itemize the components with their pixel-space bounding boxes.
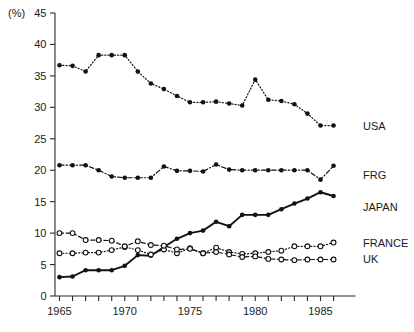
data-point-frg (253, 168, 258, 173)
data-point-japan (292, 201, 297, 206)
data-point-japan (279, 207, 284, 212)
x-tick-label: 1970 (113, 305, 137, 317)
data-point-frg (96, 168, 101, 173)
data-point-uk (70, 231, 75, 236)
data-point-uk (201, 251, 206, 256)
y-axis-unit-label: (%) (8, 7, 25, 19)
line-chart-svg: 051015202530354045(%)1965197019751980198… (0, 0, 414, 332)
data-point-uk (57, 231, 62, 236)
data-point-frg (122, 175, 127, 180)
data-point-japan (318, 190, 323, 195)
data-point-usa (266, 97, 271, 102)
y-tick-label: 0 (40, 290, 46, 302)
data-point-uk (331, 257, 336, 262)
data-point-usa (96, 53, 101, 58)
data-point-france (57, 251, 62, 256)
data-point-usa (253, 77, 258, 82)
series-label-japan: JAPAN (363, 201, 398, 213)
y-tick-label: 5 (40, 259, 46, 271)
data-point-frg (70, 163, 75, 168)
series-line-japan (60, 192, 334, 277)
axes: 051015202530354045(%)1965197019751980198… (8, 7, 356, 317)
data-point-frg (292, 168, 297, 173)
data-point-frg (188, 169, 193, 174)
data-point-usa (57, 63, 62, 68)
data-point-frg (83, 163, 88, 168)
data-point-frg (201, 169, 206, 174)
data-point-japan (136, 253, 141, 258)
data-point-france (70, 251, 75, 256)
data-point-usa (305, 111, 310, 116)
data-point-uk (109, 238, 114, 243)
data-point-france (148, 252, 153, 257)
data-point-france (292, 244, 297, 249)
data-point-usa (214, 99, 219, 104)
data-point-frg (305, 168, 310, 173)
series-label-usa: USA (363, 120, 386, 132)
data-point-usa (162, 87, 167, 92)
y-tick-label: 40 (34, 38, 46, 50)
data-point-france (109, 248, 114, 253)
data-point-usa (70, 64, 75, 69)
data-point-japan (122, 264, 127, 269)
data-point-frg (175, 169, 180, 174)
data-point-usa (149, 81, 154, 86)
data-point-uk (96, 238, 101, 243)
x-tick-label: 1965 (47, 305, 71, 317)
x-tick-label: 1985 (308, 305, 332, 317)
y-tick-label: 45 (34, 7, 46, 19)
y-tick-label: 35 (34, 70, 46, 82)
data-point-france (135, 248, 140, 253)
data-point-usa (188, 100, 193, 105)
data-point-uk (279, 257, 284, 262)
series-line-frg (60, 165, 334, 180)
data-point-japan (109, 268, 114, 273)
data-point-uk (227, 252, 232, 257)
data-point-uk (266, 257, 271, 262)
data-point-japan (201, 228, 206, 233)
data-point-uk (135, 239, 140, 244)
data-point-frg (136, 175, 141, 180)
y-tick-label: 30 (34, 101, 46, 113)
data-point-france (279, 248, 284, 253)
data-point-usa (292, 102, 297, 107)
data-point-uk (148, 243, 153, 248)
data-point-frg (331, 164, 336, 169)
data-point-frg (266, 168, 271, 173)
data-point-france (318, 244, 323, 249)
data-point-uk (83, 238, 88, 243)
data-point-usa (318, 123, 323, 128)
data-point-uk (292, 258, 297, 263)
data-point-japan (70, 274, 75, 279)
data-point-frg (227, 167, 232, 172)
data-point-japan (188, 231, 193, 236)
data-point-france (83, 250, 88, 255)
data-point-uk (305, 257, 310, 262)
data-point-france (331, 240, 336, 245)
data-point-frg (109, 174, 114, 179)
data-point-frg (279, 168, 284, 173)
data-point-usa (240, 103, 245, 108)
data-point-usa (83, 69, 88, 74)
data-point-usa (109, 53, 114, 58)
data-point-frg (214, 162, 219, 167)
data-point-uk (175, 247, 180, 252)
data-point-france (305, 244, 310, 249)
y-tick-label: 25 (34, 133, 46, 145)
series-line-usa (60, 55, 334, 125)
data-point-uk (214, 250, 219, 255)
data-point-japan (240, 213, 245, 218)
y-tick-label: 15 (34, 196, 46, 208)
series-label-france: FRANCE (363, 237, 408, 249)
data-point-japan (305, 196, 310, 201)
data-point-frg (240, 168, 245, 173)
data-point-usa (279, 99, 284, 104)
data-point-japan (214, 219, 219, 224)
data-point-uk (240, 255, 245, 260)
data-point-japan (331, 194, 336, 199)
y-tick-label: 10 (34, 227, 46, 239)
y-tick-label: 20 (34, 164, 46, 176)
series-label-frg: FRG (363, 169, 386, 181)
data-point-frg (57, 163, 62, 168)
data-point-japan (96, 268, 101, 273)
